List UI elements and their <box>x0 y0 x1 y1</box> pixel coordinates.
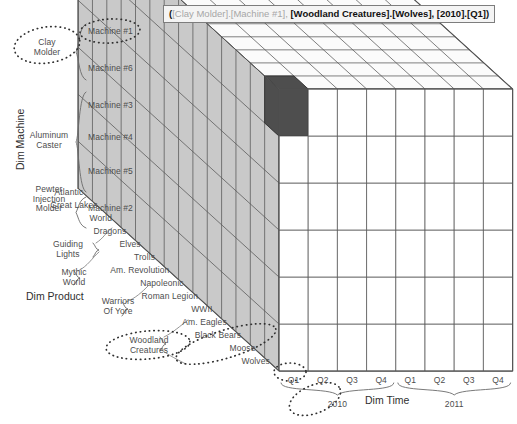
machine-group-label-aluminum-caster: AluminumCaster <box>18 131 80 150</box>
product-group-label-mythic-world: MythicWorld <box>48 268 100 287</box>
tooltip-close-paren: ) <box>486 8 489 19</box>
time-year-label-2010: 2010 <box>312 400 362 410</box>
tooltip-machine-parent: [Clay Molder]. <box>172 8 231 19</box>
dim-product-title: Dim Product <box>26 290 84 302</box>
time-year-label-2011: 2011 <box>429 400 479 410</box>
tooltip-machine-member: [Machine #1], <box>231 8 291 19</box>
tooltip-time-member: [Q1] <box>467 8 486 19</box>
product-member-14: Wolves <box>120 357 270 367</box>
dim-time-title: Dim Time <box>365 394 409 406</box>
machine-member-3: Machine #3 <box>88 101 136 111</box>
time-quarter-8: Q4 <box>478 376 517 386</box>
machine-group-brace-clay-molder <box>76 24 86 80</box>
dim-machine-title: Dim Machine <box>14 109 26 170</box>
machine-member-5: Machine #5 <box>88 167 136 177</box>
product-member-4: Dragons <box>0 227 126 237</box>
machine-member-2: Machine #6 <box>88 64 136 74</box>
product-member-2: Great Lakes <box>0 201 98 211</box>
machine-group-label-clay-molder: ClayMolder <box>18 38 76 57</box>
tooltip-product-member: [Wolves], <box>392 8 437 19</box>
product-member-3: World <box>0 214 112 224</box>
product-member-1: Atlantic <box>0 188 83 198</box>
product-group-label-woodland-creatures: WoodlandCreatures <box>118 336 180 355</box>
machine-member-4: Machine #4 <box>88 133 136 143</box>
tooltip-product-parent: [Woodland Creatures]. <box>290 8 392 19</box>
product-group-label-warriors-of-yore: WarriorsOf Yore <box>92 297 144 316</box>
machine-member-1: Machine #1 <box>88 27 136 37</box>
cell-tooltip: ([Clay Molder].[Machine #1], [Woodland C… <box>163 5 495 23</box>
oltp-cube-diagram: Machine #1Machine #6Machine #3Machine #4… <box>0 0 517 424</box>
tooltip-time-parent: [2010]. <box>437 8 467 19</box>
product-member-11: Am. Eagles <box>77 318 227 328</box>
product-group-label-guiding-lights: GuidingLights <box>42 240 94 259</box>
